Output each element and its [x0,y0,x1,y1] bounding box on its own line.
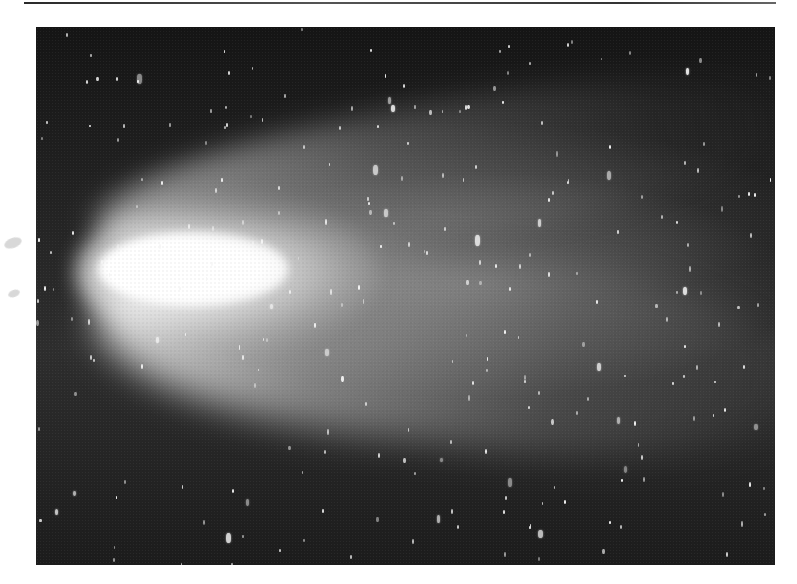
star [384,209,388,217]
star [638,443,640,447]
star [36,320,39,326]
star [322,509,324,513]
star [459,110,461,114]
star [576,411,578,415]
star [232,489,234,493]
star [551,419,554,425]
star [737,306,739,310]
star [226,123,228,127]
star [493,86,496,90]
star [303,539,305,542]
star [485,449,487,454]
star [597,363,601,371]
star [444,227,446,231]
star [468,395,470,400]
star [700,291,702,295]
star [457,525,459,529]
star [403,458,406,463]
star [529,526,531,529]
star [341,376,344,381]
star [113,558,115,562]
star [754,193,756,197]
star [380,245,382,248]
star [124,480,126,484]
star [37,299,39,303]
star [602,549,605,554]
star [278,186,280,190]
star [528,406,530,410]
star [576,272,578,275]
star [90,355,92,360]
star [96,77,98,82]
star [467,105,470,110]
star [254,383,256,388]
star [641,455,643,460]
star [450,440,452,444]
star [757,303,759,307]
star [226,533,231,544]
star [564,500,566,504]
star [582,342,585,347]
star [499,50,501,53]
star [350,555,352,560]
star [769,76,771,80]
star [507,71,509,75]
star [137,74,142,84]
star [504,552,506,557]
star [426,251,428,255]
star [388,97,392,104]
star [596,300,598,304]
star [367,197,369,200]
star [529,253,531,257]
star [699,58,702,63]
star [368,202,370,205]
comet-photograph [36,27,775,565]
star [370,49,372,52]
star [748,192,750,196]
star [325,349,329,356]
star [624,375,626,378]
star [743,365,745,370]
star [38,238,40,242]
star [587,397,589,401]
star [672,382,674,385]
star [617,417,621,425]
star [721,206,723,212]
star [724,408,726,412]
star [429,110,432,115]
star [763,487,765,490]
scan-smudge [3,235,23,251]
film-grain [36,27,775,565]
star [738,195,740,198]
star [442,173,444,178]
star [541,121,543,125]
star [408,242,410,247]
star [169,123,171,127]
star [479,260,481,265]
star [137,80,139,83]
star [676,221,678,224]
star [246,499,249,506]
star [567,43,569,47]
star [508,478,512,487]
star [123,124,125,127]
star [475,235,480,246]
star [225,106,227,109]
star [479,281,482,286]
star [764,513,766,517]
star [46,121,48,124]
star [279,549,281,552]
star [617,230,619,234]
star [266,338,268,342]
star [754,424,758,431]
scan-smudge [7,288,21,299]
star [466,280,468,285]
star [548,272,550,277]
star [71,317,73,322]
star [376,517,378,521]
star [221,178,223,181]
star [341,303,343,308]
star [504,330,506,334]
star [524,380,526,384]
star [210,109,212,113]
